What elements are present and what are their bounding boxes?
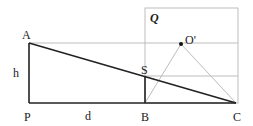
label-a: A bbox=[22, 28, 31, 42]
label-d: d bbox=[85, 109, 91, 123]
label-h: h bbox=[13, 66, 19, 80]
point-o-prime bbox=[179, 42, 183, 46]
label-c: C bbox=[233, 110, 241, 124]
label-s: S bbox=[141, 63, 148, 77]
label-p: P bbox=[24, 110, 31, 124]
geometry-diagram: A P B C S O' h d Q bbox=[0, 0, 253, 126]
label-q: Q bbox=[150, 11, 159, 25]
line-b-oprime bbox=[145, 44, 181, 103]
label-o-prime: O' bbox=[185, 33, 196, 47]
line-ac-hypotenuse bbox=[29, 43, 236, 103]
label-b: B bbox=[141, 110, 149, 124]
line-oprime-c bbox=[181, 44, 236, 103]
